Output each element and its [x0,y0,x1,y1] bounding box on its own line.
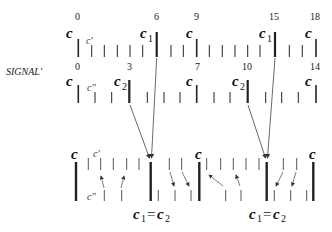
row2-number-3: 3 [127,61,132,72]
eq1-sub1: 1 [141,213,146,224]
row1-ticks [78,32,316,57]
eq2-c1: c [249,206,256,222]
signal-alignment-diagram: SIGNAL' 0 6 9 15 18 c c' c 1 c c 1 c [0,0,332,232]
arrow-c2-3-to-merged [130,105,150,158]
row1-label-c-9: c [186,25,193,41]
row2-number-10: 10 [242,61,252,72]
row1-label-c: c [66,25,73,41]
row1-number-18: 18 [310,11,320,22]
row1-number-0: 0 [75,11,80,22]
row3-labels: c c' c'' c c [71,146,316,202]
row1-number-6: 6 [154,11,159,22]
eq1-c1: c [133,206,140,222]
row3-ticks [76,158,313,201]
row2-number-0: 0 [75,61,80,72]
row1-number-15: 15 [269,11,279,22]
row1-label-c-18: c [305,25,312,41]
eq1-sub2: 2 [165,213,170,224]
arrow-c1-6-to-merged [152,58,157,158]
row3-label-c-middle: c [195,146,202,162]
arrow-c1-15-to-merged [268,58,276,158]
eq1-c2: c [157,206,164,222]
eq2-equals: = [263,206,271,222]
row2-numbers: 0 3 7 10 14 [75,61,320,72]
signal-label: SIGNAL' [6,66,43,77]
arrow-c2-10-to-merged [248,105,266,158]
eq2-c2: c [273,206,280,222]
row3-label-c-left: c [71,146,78,162]
eq2-sub2: 2 [281,213,286,224]
row1-label-c1-b: c [259,25,266,41]
row2-number-14: 14 [310,61,320,72]
row2-label-c-14: c [305,73,312,89]
alignment-arrows [130,58,275,158]
row1-label-c1-a-sub: 1 [148,33,153,44]
row3-label-c-prime: c' [93,148,100,159]
row1-numbers: 0 6 9 15 18 [75,11,320,22]
row1-label-c1-b-sub: 1 [267,33,272,44]
row2-label-c2-b: c [232,73,239,89]
row2-label-c2-b-sub: 2 [240,81,245,92]
merge-equation-2: c 1 = c 2 [249,206,286,224]
row1-label-c-prime: c' [86,35,93,46]
merge-equation-1: c 1 = c 2 [133,206,170,224]
row2-label-c: c [66,73,73,89]
row1-number-9: 9 [194,11,199,22]
row3-label-c-right: c [309,146,316,162]
eq2-sub1: 1 [257,213,262,224]
row2-labels: c c'' c 2 c c 2 c [66,73,312,93]
eq1-equals: = [147,206,155,222]
row2-label-c2-a: c [114,73,121,89]
row3-label-c-double-prime: c'' [87,191,97,202]
row2-label-c-7: c [186,73,193,89]
row2-label-c2-a-sub: 2 [122,81,127,92]
row2-label-c-double-prime: c'' [87,82,97,93]
row2-number-7: 7 [195,61,200,72]
row1-label-c1-a: c [140,25,147,41]
